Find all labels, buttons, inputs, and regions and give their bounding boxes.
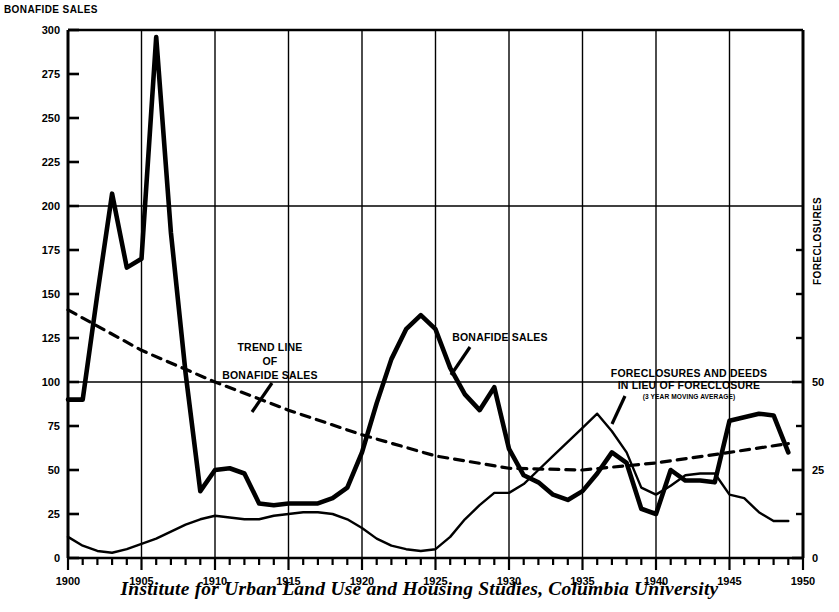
chart-caption: Institute for Urban Land Use and Housing…	[0, 578, 839, 600]
ytick-label-300: 300	[42, 24, 60, 36]
annotation-line: IN LIEU OF FORECLOSURE	[618, 379, 761, 391]
series-line-solid-thick	[68, 37, 788, 514]
leader-line-sales	[451, 347, 470, 375]
chart-figure: BONAFIDE SALES FORECLOSURES 025507510012…	[0, 0, 839, 612]
ytick-label-225: 225	[42, 156, 60, 168]
series-line-solid-thin	[68, 414, 788, 553]
ytick-label-50: 50	[48, 464, 60, 476]
ytick-label-75: 75	[48, 420, 60, 432]
ytick-label-150: 150	[42, 288, 60, 300]
annotation-line: (3 YEAR MOVING AVERAGE)	[643, 393, 736, 401]
ytick-label-250: 250	[42, 112, 60, 124]
annotation-line: TREND LINE	[238, 341, 303, 353]
annotation-line: FORECLOSURES AND DEEDS	[611, 367, 767, 379]
annotation-line: BONAFIDE SALES	[222, 369, 318, 381]
ytick-label-200: 200	[42, 200, 60, 212]
y2tick-label-50: 50	[812, 376, 824, 388]
ytick-label-0: 0	[54, 552, 60, 564]
ytick-label-275: 275	[42, 68, 60, 80]
ytick-label-25: 25	[48, 508, 60, 520]
y2tick-label-0: 0	[812, 552, 818, 564]
ytick-label-175: 175	[42, 244, 60, 256]
y2tick-label-25: 25	[812, 464, 824, 476]
annotation-line: BONAFIDE SALES	[452, 331, 548, 343]
annotation-line: OF	[263, 355, 278, 367]
ytick-label-125: 125	[42, 332, 60, 344]
chart-canvas: 0255075100125150175200225250275300025501…	[0, 0, 839, 612]
ytick-label-100: 100	[42, 376, 60, 388]
leader-line-foreclosures	[612, 396, 625, 424]
